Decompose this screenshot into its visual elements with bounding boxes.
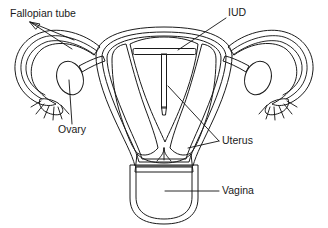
fallopian-tube-left [15,30,100,105]
leader-uterus-a [168,86,219,141]
label-vagina: Vagina [222,184,254,196]
left-adnexa-group [15,30,105,120]
right-adnexa-group [223,30,313,120]
fallopian-tube-right-lumen-2 [233,41,302,95]
label-iud: IUD [228,6,247,18]
label-ovary: Ovary [58,123,87,135]
fallopian-tube-left-lumen-2 [26,41,95,95]
vagina-canal [136,167,192,219]
ovarian-ligament-right [223,56,249,72]
uterus-wall-right [170,44,216,155]
leader-ovary [69,80,72,124]
uterus-wall-left [112,44,158,155]
vagina-group [130,165,198,224]
anatomy-diagram: Fallopian tube IUD Ovary Uterus Vagina [0,0,328,228]
fallopian-tube-right [228,30,313,105]
vagina-outer-wall [130,165,198,224]
iud-vertical-stem [162,54,167,108]
ovarian-ligament-left [79,56,105,72]
uterine-cavity [130,37,198,142]
anatomy-illustration: Fallopian tube IUD Ovary Uterus Vagina [0,0,328,228]
label-uterus: Uterus [222,134,253,146]
iud-device-group [133,49,196,116]
label-fallopian-tube: Fallopian tube [10,7,76,19]
uterus-myometrium [102,32,226,162]
iud-threads [157,148,171,161]
